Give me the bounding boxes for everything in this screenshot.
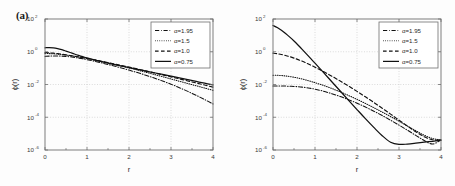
y-tick-exponent: 2 — [263, 14, 266, 19]
y-tick-label: 10 — [255, 81, 262, 88]
y-axis-label: ϕ(r) — [10, 78, 19, 90]
chart-panel-b: (b) 0123410210010-210-410-6rϕ(r)α=1.95α=… — [228, 0, 455, 186]
y-tick-exponent: -2 — [263, 79, 267, 84]
y-tick-labels: 10210010-210-410-6 — [27, 14, 39, 154]
x-axis-label: r — [128, 165, 131, 174]
y-tick-exponent: -2 — [35, 79, 39, 84]
y-tick-exponent: -6 — [35, 145, 39, 150]
y-tick-label: 10 — [255, 15, 262, 22]
y-axis-label: ϕ(r) — [238, 78, 247, 90]
y-tick-exponent: 2 — [35, 14, 38, 19]
y-tick-label: 10 — [27, 146, 34, 153]
x-tick-label: 3 — [397, 153, 401, 160]
y-tick-exponent: -4 — [263, 112, 267, 117]
legend-label: α=0.75 — [174, 58, 194, 65]
legend-label: α=1.0 — [402, 47, 418, 54]
y-tick-label: 10 — [255, 48, 262, 55]
x-tick-label: 3 — [169, 153, 173, 160]
legend: α=1.95α=1.5α=1.0α=0.75 — [379, 22, 438, 68]
y-tick-label: 10 — [27, 114, 34, 121]
y-tick-label: 10 — [27, 15, 34, 22]
y-tick-exponent: 0 — [263, 46, 266, 51]
y-tick-label: 10 — [27, 81, 34, 88]
x-tick-label: 0 — [271, 153, 275, 160]
plot-b: 0123410210010-210-410-6rϕ(r)α=1.95α=1.5α… — [228, 0, 455, 186]
y-tick-exponent: -4 — [35, 112, 39, 117]
x-tick-label: 0 — [43, 153, 47, 160]
legend-label: α=1.95 — [174, 27, 194, 34]
legend-label: α=1.5 — [174, 37, 190, 44]
x-tick-label: 2 — [355, 153, 359, 160]
legend: α=1.95α=1.5α=1.0α=0.75 — [151, 22, 210, 68]
y-tick-labels: 10210010-210-410-6 — [255, 14, 267, 154]
y-tick-label: 10 — [255, 114, 262, 121]
legend-label: α=0.75 — [402, 58, 422, 65]
figure-container: (a) 0123410210010-210-410-6rϕ(r)α=1.95α=… — [0, 0, 455, 186]
x-tick-labels: 01234 — [43, 153, 215, 160]
chart-panel-a: (a) 0123410210010-210-410-6rϕ(r)α=1.95α=… — [0, 0, 227, 186]
x-tick-label: 1 — [85, 153, 89, 160]
x-tick-label: 4 — [439, 153, 443, 160]
plot-a: 0123410210010-210-410-6rϕ(r)α=1.95α=1.5α… — [0, 0, 227, 186]
legend-label: α=1.95 — [402, 27, 422, 34]
legend-label: α=1.0 — [174, 47, 190, 54]
x-tick-label: 2 — [127, 153, 131, 160]
y-tick-label: 10 — [255, 146, 262, 153]
x-tick-labels: 01234 — [271, 153, 443, 160]
legend-label: α=1.5 — [402, 37, 418, 44]
y-tick-exponent: 0 — [35, 46, 38, 51]
x-tick-label: 1 — [313, 153, 317, 160]
x-axis-label: r — [356, 165, 359, 174]
x-tick-label: 4 — [211, 153, 215, 160]
y-tick-exponent: -6 — [263, 145, 267, 150]
y-tick-label: 10 — [27, 48, 34, 55]
